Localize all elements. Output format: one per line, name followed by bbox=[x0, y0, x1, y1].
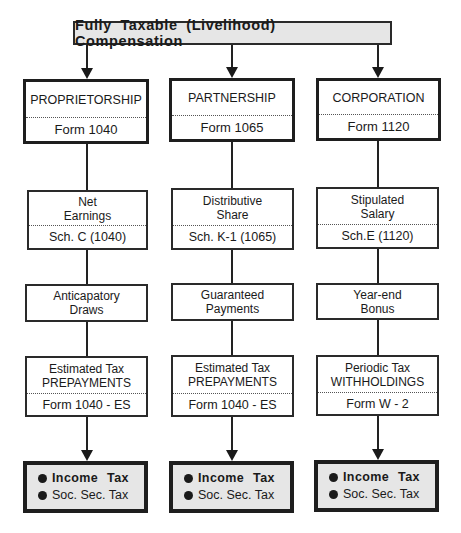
income-schedule: Sch.E (1120) bbox=[318, 224, 437, 247]
connector-title-to-corporation bbox=[377, 45, 379, 68]
entity-box-partnership: PARTNERSHIP Form 1065 bbox=[169, 78, 295, 142]
connector bbox=[231, 417, 233, 451]
income-line1: Stipulated bbox=[351, 193, 404, 207]
bullet-icon bbox=[184, 474, 193, 483]
income-box-stipulated-salary: Stipulated Salary Sch.E (1120) bbox=[316, 187, 439, 249]
bullet-icon bbox=[38, 491, 47, 500]
payment-line2: Payments bbox=[206, 302, 259, 316]
entity-box-proprietorship: PROPRIETORSHIP Form 1040 bbox=[23, 79, 149, 144]
connector bbox=[231, 250, 233, 283]
bullet-icon bbox=[38, 474, 47, 483]
entity-form: Form 1065 bbox=[172, 115, 292, 139]
tax-form: Form W - 2 bbox=[318, 392, 437, 414]
result-item-soc-sec-tax: Soc. Sec. Tax bbox=[184, 487, 290, 504]
connector bbox=[86, 144, 88, 190]
payment-line1: Anticapatory bbox=[53, 289, 120, 303]
payment-line2: Draws bbox=[69, 303, 103, 317]
result-item-soc-sec-tax: Soc. Sec. Tax bbox=[38, 487, 144, 504]
income-box-distributive-share: Distributive Share Sch. K-1 (1065) bbox=[171, 188, 294, 250]
result-box-partnership: Income Tax Soc. Sec. Tax bbox=[169, 461, 294, 513]
connector bbox=[377, 416, 379, 450]
entity-name: PARTNERSHIP bbox=[172, 81, 292, 115]
result-item-income-tax: Income Tax bbox=[184, 470, 290, 487]
arrow-down-icon bbox=[81, 450, 93, 461]
arrow-down-icon bbox=[226, 450, 238, 461]
connector bbox=[231, 321, 233, 355]
arrow-down-icon bbox=[226, 67, 238, 78]
bullet-icon bbox=[329, 490, 338, 499]
entity-name: PROPRIETORSHIP bbox=[26, 82, 146, 117]
tax-form: Form 1040 - ES bbox=[173, 393, 292, 415]
income-line1: Distributive bbox=[203, 194, 262, 208]
title-box: Fully Taxable (Livelihood) Compensation bbox=[73, 21, 392, 45]
tax-line1: Estimated Tax bbox=[49, 362, 124, 376]
payment-box-guaranteed-payments: Guaranteed Payments bbox=[171, 283, 294, 321]
payment-box-draws: Anticapatory Draws bbox=[25, 284, 148, 322]
tax-payment-box-withholdings: Periodic Tax WITHHOLDINGS Form W - 2 bbox=[316, 355, 439, 416]
connector bbox=[86, 417, 88, 451]
income-box-net-earnings: Net Earnings Sch. C (1040) bbox=[27, 190, 148, 250]
entity-name: CORPORATION bbox=[319, 81, 438, 114]
result-item-income-tax: Income Tax bbox=[38, 470, 144, 487]
tax-form: Form 1040 - ES bbox=[27, 393, 146, 415]
connector bbox=[231, 142, 233, 188]
payment-box-year-end-bonus: Year-end Bonus bbox=[316, 283, 439, 320]
arrow-down-icon bbox=[81, 68, 93, 79]
entity-form: Form 1040 bbox=[26, 117, 146, 141]
tax-line2: PREPAYMENTS bbox=[188, 375, 277, 389]
tax-line2: PREPAYMENTS bbox=[42, 376, 131, 390]
bullet-icon bbox=[184, 491, 193, 500]
income-schedule: Sch. C (1040) bbox=[29, 225, 146, 248]
result-box-corporation: Income Tax Soc. Sec. Tax bbox=[314, 460, 439, 512]
payment-line2: Bonus bbox=[360, 302, 394, 316]
tax-line1: Periodic Tax bbox=[345, 361, 410, 375]
entity-box-corporation: CORPORATION Form 1120 bbox=[316, 78, 441, 141]
connector-title-to-partnership bbox=[231, 45, 233, 68]
result-item-soc-sec-tax: Soc. Sec. Tax bbox=[329, 486, 435, 503]
connector-title-to-proprietorship bbox=[86, 45, 88, 69]
connector bbox=[86, 250, 88, 284]
bullet-icon bbox=[329, 473, 338, 482]
tax-payment-box-prepayments: Estimated Tax PREPAYMENTS Form 1040 - ES bbox=[171, 355, 294, 417]
arrow-down-icon bbox=[372, 449, 384, 460]
result-box-proprietorship: Income Tax Soc. Sec. Tax bbox=[23, 461, 148, 513]
result-item-income-tax: Income Tax bbox=[329, 469, 435, 486]
connector bbox=[86, 322, 88, 356]
payment-line1: Guaranteed bbox=[201, 288, 264, 302]
entity-form: Form 1120 bbox=[319, 114, 438, 138]
connector bbox=[377, 320, 379, 355]
tax-payment-box-prepayments: Estimated Tax PREPAYMENTS Form 1040 - ES bbox=[25, 356, 148, 417]
income-line1: Net bbox=[78, 195, 97, 209]
income-line2: Share bbox=[216, 208, 248, 222]
income-line2: Earnings bbox=[64, 209, 111, 223]
connector bbox=[377, 141, 379, 187]
tax-line2: WITHHOLDINGS bbox=[331, 375, 424, 389]
income-line2: Salary bbox=[360, 207, 394, 221]
income-schedule: Sch. K-1 (1065) bbox=[173, 225, 292, 248]
payment-line1: Year-end bbox=[353, 288, 401, 302]
connector bbox=[377, 249, 379, 283]
arrow-down-icon bbox=[372, 67, 384, 78]
tax-line1: Estimated Tax bbox=[195, 361, 270, 375]
